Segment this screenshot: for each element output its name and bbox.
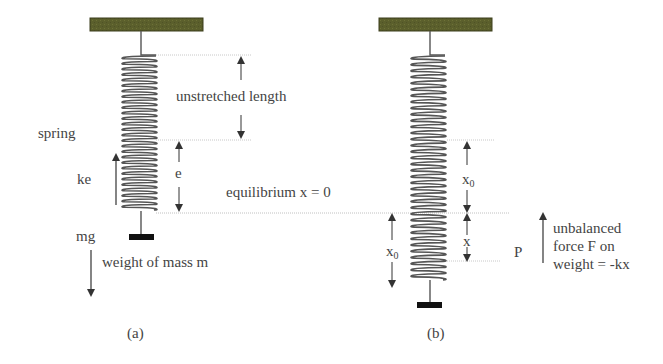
label-mg: mg [76, 229, 95, 244]
spring-top-stem-b [430, 31, 445, 55]
spring-coil-b [411, 56, 446, 280]
ceiling-support-a [90, 18, 203, 31]
label-P: P [514, 245, 522, 260]
label-x0-left: x0 [386, 244, 399, 259]
caption-a: (a) [127, 326, 144, 341]
label-x0-upper: x0 [462, 172, 475, 187]
caption-b: (b) [427, 326, 445, 341]
label-x0-left-sub: 0 [394, 250, 399, 261]
label-force-line3: weight = -kx [553, 257, 630, 272]
label-weight-of-mass: weight of mass m [102, 255, 208, 270]
ceiling-support-b [379, 18, 492, 31]
spring-top-stem-a [141, 31, 156, 55]
label-force-line1: unbalanced [553, 221, 621, 236]
label-x0-left-base: x [386, 243, 394, 259]
label-x0-upper-base: x [462, 171, 470, 187]
label-unstretched-length: unstretched length [176, 89, 286, 104]
mass-b [417, 302, 442, 308]
panel-a [90, 18, 510, 293]
label-e: e [175, 166, 182, 181]
label-equilibrium: equilibrium x = 0 [226, 185, 331, 200]
spring-coil-a [122, 56, 157, 210]
label-x0-upper-sub: 0 [470, 178, 475, 189]
mass-a [129, 234, 154, 240]
panel-b [379, 18, 543, 308]
label-spring: spring [38, 126, 76, 141]
spring-diagram [0, 0, 663, 364]
label-force-line2: force F on [553, 239, 615, 254]
label-x: x [463, 234, 471, 249]
label-ke: ke [77, 172, 91, 187]
